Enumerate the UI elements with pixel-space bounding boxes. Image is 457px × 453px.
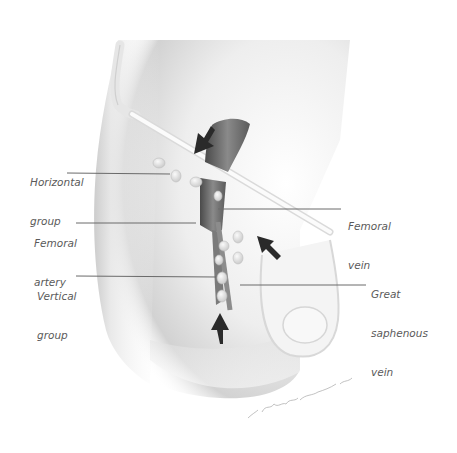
node-horizontal-3 [190,177,202,187]
node-vertical-6 [217,290,227,302]
label-vertical-group: Vertical group [37,264,77,355]
node-vertical-1 [233,231,243,243]
node-horizontal-4 [214,191,222,201]
node-vertical-3 [233,252,243,264]
node-vertical-2 [219,241,229,251]
node-horizontal-1 [153,158,165,168]
node-vertical-4 [215,255,223,265]
node-vertical-5 [217,272,227,284]
label-great-saphenous-vein: Great saphenous vein [371,262,428,392]
node-horizontal-2 [171,170,181,182]
